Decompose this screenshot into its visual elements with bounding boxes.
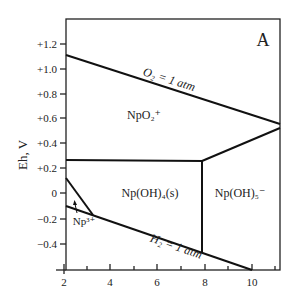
y-tick: +1.0 xyxy=(37,63,57,75)
y-tick: +0.8 xyxy=(37,88,57,100)
eh-ph-diagram: +1.2 +1.0 +0.8 +0.6 +0.4 +0.2 0 −0.2 −0.… xyxy=(0,0,293,306)
y-axis-label: Eh, V xyxy=(15,139,30,170)
y-tick: −0.4 xyxy=(37,238,57,250)
x-tick: 6 xyxy=(154,276,160,288)
y-tick: +0.6 xyxy=(37,112,57,124)
npo2-npoh4-boundary xyxy=(66,160,203,161)
plot-frame xyxy=(66,19,280,270)
y-tick: +1.2 xyxy=(37,38,57,50)
x-tick: 2 xyxy=(61,276,67,288)
y-tick: +0.2 xyxy=(37,162,57,174)
field-np3-plus: Np³⁺ xyxy=(73,215,96,227)
field-np-oh5-minus: Np(OH)₅⁻ xyxy=(215,186,266,200)
h2-line-label: H₂ = 1 atm xyxy=(148,230,205,261)
x-tick: 8 xyxy=(202,276,208,288)
field-npo2-plus: NpO₂⁺ xyxy=(127,108,161,122)
y-axis: +1.2 +1.0 +0.8 +0.6 +0.4 +0.2 0 −0.2 −0.… xyxy=(37,38,66,250)
y-tick: +0.4 xyxy=(37,137,57,149)
o2-line-label: O₂ = 1 atm xyxy=(141,64,197,94)
y-tick: 0 xyxy=(52,187,58,199)
y-tick: −0.2 xyxy=(37,213,57,225)
npo2-npoh5-boundary xyxy=(202,128,280,161)
field-np-oh4-s: Np(OH)₄(s) xyxy=(122,186,179,200)
x-tick: 4 xyxy=(107,276,113,288)
np3-npoh4-boundary xyxy=(66,178,93,215)
o2-line xyxy=(66,55,280,124)
panel-label: A xyxy=(257,30,270,50)
arrow-head-icon xyxy=(73,200,77,205)
x-tick: 10 xyxy=(247,276,259,288)
